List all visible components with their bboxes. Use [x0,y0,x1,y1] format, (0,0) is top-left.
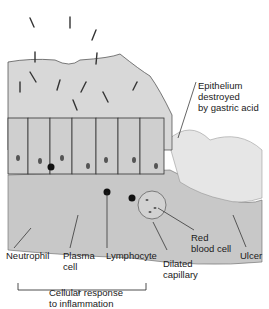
label-ulcer: Ulcer [240,250,262,261]
label-epithelium: Epithelium destroyed by gastric acid [198,80,259,113]
label-neutrophil: Neutrophil [6,250,49,261]
label-plasma-cell: Plasma cell [63,250,95,272]
label-lymphocyte: Lymphocyte [106,250,157,261]
epithelial-cells [8,118,164,174]
label-bracket-caption: Cellular response to inflammation [49,287,123,309]
label-dilated-capillary: Dilated capillary [163,258,198,280]
label-red-blood-cell: Red blood cell [191,232,231,254]
dilated-capillary [138,191,166,219]
gastric-ulcer-diagram [0,0,269,309]
